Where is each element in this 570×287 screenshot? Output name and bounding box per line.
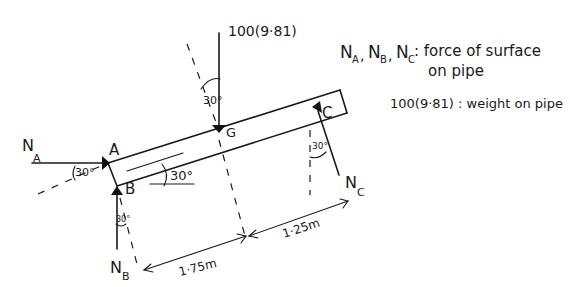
- pipe-angle-label: 30°: [170, 168, 193, 183]
- legend-nb-main: N: [368, 42, 381, 62]
- nb-label-sub: B: [122, 270, 130, 283]
- legend-na-sub: A: [352, 54, 359, 65]
- nc-angle-arc: [310, 152, 326, 158]
- na-angle-label: 30°: [75, 166, 95, 179]
- nc-label-main: N: [345, 173, 357, 192]
- legend-comma: ,: [388, 47, 392, 63]
- support-c-marker: [312, 101, 322, 113]
- legend-nb-sub: B: [380, 54, 387, 65]
- nc-label-sub: C: [357, 186, 365, 199]
- legend-line2-text: on pipe: [428, 62, 484, 80]
- legend-nc-main: N: [396, 42, 409, 62]
- weight-angle-label: 30°: [203, 94, 223, 107]
- point-c-label: C: [322, 104, 332, 122]
- support-b-marker: [111, 186, 123, 195]
- na-label-sub: A: [33, 152, 41, 165]
- dimension-label-b-to-g: 1·75m: [177, 256, 218, 279]
- point-a-label: A: [109, 141, 120, 159]
- point-g-label: G: [226, 125, 236, 140]
- legend-line3-text: 100(9·81) : weight on pipe: [390, 96, 563, 111]
- legend-na-main: N: [340, 42, 353, 62]
- nb-reference-dashed: [120, 198, 138, 268]
- pipe-right-end: [340, 90, 347, 113]
- nc-angle-label: 30°: [312, 141, 328, 151]
- weight-angle-arc: [201, 78, 220, 89]
- point-b-label: B: [125, 180, 135, 198]
- legend-comma: ,: [360, 47, 364, 63]
- nb-angle-label: 30°: [116, 215, 130, 224]
- legend-line1-text: : force of surface: [414, 42, 541, 60]
- weight-reference-dashed: [187, 44, 217, 125]
- legend: N A , N B , N C : force of surface on pi…: [340, 42, 563, 111]
- free-body-diagram: 30° A 30° N A B 30° N B G 30° 100(9·81) …: [0, 0, 570, 287]
- g-projection-dashed: [219, 140, 245, 236]
- nb-label-main: N: [110, 258, 122, 277]
- angle-arc: [162, 164, 167, 186]
- pipe-left-end: [108, 163, 117, 186]
- dimension-label-g-to-c: 1·25m: [281, 216, 322, 241]
- weight-label: 100(9·81): [228, 23, 297, 39]
